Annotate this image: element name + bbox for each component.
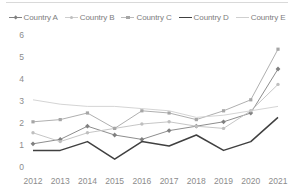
data-point (113, 127, 116, 130)
data-point (195, 125, 198, 128)
data-point (222, 109, 225, 112)
legend-label-country-a: Country A (24, 13, 58, 22)
data-point (276, 48, 279, 51)
legend-item-country-c[interactable]: Country C (121, 13, 171, 22)
legend-marker-line-icon (236, 13, 249, 22)
legend-item-country-a[interactable]: Country A (9, 13, 58, 22)
data-point (86, 111, 89, 114)
x-axis-tick-2015: 2015 (102, 176, 128, 186)
data-point (85, 124, 90, 129)
legend-label-country-e: Country E (251, 13, 286, 22)
data-point (140, 109, 143, 112)
series-country-b (31, 83, 279, 144)
series-line (33, 84, 278, 141)
chart-legend: Country A Country B Country C Country D (0, 13, 294, 22)
line-chart-svg (0, 30, 294, 170)
series-line (33, 69, 278, 144)
data-point (168, 111, 171, 114)
top-divider (6, 2, 288, 3)
legend-label-country-d: Country D (194, 13, 229, 22)
data-point (167, 120, 170, 123)
legend-marker-dot-icon (65, 13, 78, 22)
data-point (276, 83, 279, 86)
data-point (59, 118, 62, 121)
data-point (59, 140, 62, 143)
data-point (140, 122, 143, 125)
data-point (195, 118, 198, 121)
data-point (249, 98, 252, 101)
x-axis-tick-2017: 2017 (156, 176, 182, 186)
legend-marker-diamond-icon (9, 13, 22, 22)
chart-screenshot: Country A Country B Country C Country D (0, 0, 294, 195)
series-country-a (31, 67, 281, 147)
data-point (276, 67, 281, 72)
legend-label-country-b: Country B (80, 13, 115, 22)
data-point (86, 131, 89, 134)
data-point (31, 120, 34, 123)
series-country-c (31, 48, 279, 130)
series-country-e (33, 100, 278, 118)
x-axis-tick-2019: 2019 (211, 176, 237, 186)
x-axis-tick-2014: 2014 (74, 176, 100, 186)
series-line (33, 100, 278, 118)
legend-marker-solid-line-icon (179, 13, 192, 22)
data-point (221, 119, 226, 124)
data-point (112, 133, 117, 138)
data-point (167, 128, 172, 133)
legend-label-country-c: Country C (136, 13, 171, 22)
plot-area (0, 30, 294, 170)
x-axis-tick-2016: 2016 (129, 176, 155, 186)
legend-item-country-d[interactable]: Country D (179, 13, 229, 22)
legend-marker-plus-icon (121, 13, 134, 22)
x-axis-tick-2018: 2018 (183, 176, 209, 186)
x-axis-tick-2013: 2013 (47, 176, 73, 186)
data-point (31, 131, 34, 134)
legend-item-country-e[interactable]: Country E (236, 13, 286, 22)
x-axis-tick-2020: 2020 (238, 176, 264, 186)
x-axis-tick-2021: 2021 (265, 176, 291, 186)
data-point (31, 141, 36, 146)
x-axis-tick-2012: 2012 (20, 176, 46, 186)
data-point (222, 127, 225, 130)
legend-item-country-b[interactable]: Country B (65, 13, 115, 22)
